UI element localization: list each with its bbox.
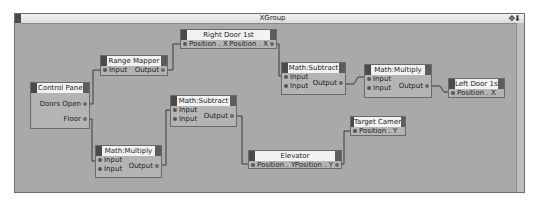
node-header[interactable]: Elevator <box>249 151 341 161</box>
node-header[interactable]: Math:Subtract <box>171 96 236 106</box>
port-label: Position . X <box>189 40 228 48</box>
input-port-icon[interactable] <box>251 163 255 167</box>
node-cap <box>83 83 89 93</box>
input-port-icon[interactable] <box>98 158 102 162</box>
port-label: Output <box>204 112 228 120</box>
input-port-icon[interactable] <box>353 129 357 133</box>
output-port[interactable]: Output <box>204 112 234 121</box>
port-label: Input <box>179 106 197 114</box>
node-title: Control Panel <box>37 83 83 93</box>
node-title: Right Door 1st <box>187 30 270 40</box>
node-cap <box>155 146 161 156</box>
node-cap <box>335 151 341 161</box>
output-port[interactable]: Output <box>399 82 429 91</box>
node-math-subtract-1[interactable]: Math:Subtract Input Input Output <box>170 95 237 127</box>
input-port-icon[interactable] <box>284 84 288 88</box>
node-elevator[interactable]: Elevator Position . Y Position . Y <box>248 150 342 169</box>
input-port-icon[interactable] <box>173 108 177 112</box>
input-port-icon[interactable] <box>173 117 177 121</box>
node-cap <box>161 56 167 66</box>
port-doors-open[interactable]: Doors Open <box>31 100 89 109</box>
port-label: Input <box>373 84 391 92</box>
node-header[interactable]: Left Door 1st <box>449 79 504 89</box>
node-title: Math:Subtract <box>288 63 339 73</box>
port-row[interactable]: Position . X Position . X <box>181 40 276 49</box>
node-math-multiply-1[interactable]: Math:Multiply Input Input Output <box>95 145 162 178</box>
node-control-panel[interactable]: Control Panel Doors Open Floor <box>30 82 90 129</box>
node-right-door[interactable]: Right Door 1st Position . X Position . X <box>180 29 277 49</box>
output-port-icon[interactable] <box>83 117 87 121</box>
port-label: Output <box>135 66 159 74</box>
input-port-icon[interactable] <box>451 91 455 95</box>
node-header[interactable]: Math:Multiply <box>96 146 161 156</box>
node-header[interactable]: Target Camera <box>351 117 405 127</box>
node-title: Math:Multiply <box>371 65 425 75</box>
port-label: Floor <box>64 115 81 123</box>
node-left-door[interactable]: Left Door 1st Position . X <box>448 78 505 98</box>
port-label: Position . X <box>229 40 268 48</box>
node-math-multiply-2[interactable]: Math:Multiply Input Input Output <box>364 64 432 98</box>
node-title: Range Mapper <box>107 56 161 66</box>
output-port-icon[interactable] <box>270 42 274 46</box>
port-label: Input <box>179 115 197 123</box>
input-port-icon[interactable] <box>284 75 288 79</box>
output-port-icon[interactable] <box>230 114 234 118</box>
port-label: Position . Y <box>257 161 295 169</box>
port-label: Input <box>290 82 308 90</box>
window-title: XGroup <box>259 14 285 22</box>
node-header[interactable]: Math:Multiply <box>365 65 431 75</box>
port-label: Position . Y <box>359 127 397 135</box>
input-port-icon[interactable] <box>103 68 107 72</box>
node-range-mapper[interactable]: Range Mapper Input Output <box>100 55 168 76</box>
input-port-icon[interactable] <box>367 77 371 81</box>
port-label: Output <box>313 79 337 87</box>
port-label: Input <box>109 66 127 74</box>
node-cap <box>230 96 236 106</box>
output-port-icon[interactable] <box>83 102 87 106</box>
node-cap <box>401 117 405 127</box>
move-collapse-icon[interactable]: ✥⬇ <box>509 14 520 23</box>
port-label: Input <box>104 165 122 173</box>
port-row[interactable]: Position . Y <box>351 127 405 136</box>
node-title: Math:Multiply <box>102 146 155 156</box>
output-port-icon[interactable] <box>161 68 165 72</box>
output-port-icon[interactable] <box>425 84 429 88</box>
input-port-icon[interactable] <box>98 167 102 171</box>
node-header[interactable]: Range Mapper <box>101 56 167 66</box>
node-cap <box>498 79 504 89</box>
port-label: Output <box>399 82 423 90</box>
port-row[interactable]: Position . X <box>449 89 504 98</box>
node-cap <box>425 65 431 75</box>
port-label: Position . X <box>457 89 496 97</box>
node-title: Math:Subtract <box>177 96 230 106</box>
output-port[interactable]: Output <box>313 79 343 88</box>
node-title: Left Door 1st <box>455 79 498 89</box>
node-cap <box>270 30 276 40</box>
input-port-icon[interactable] <box>367 86 371 90</box>
port-label: Input <box>290 73 308 81</box>
node-title: Target Camera <box>354 117 401 127</box>
output-port-icon[interactable] <box>155 164 159 168</box>
output-port[interactable]: Output <box>129 162 159 171</box>
port-row[interactable]: Input Output <box>101 66 167 75</box>
node-header[interactable]: Right Door 1st <box>181 30 276 40</box>
node-target-camera[interactable]: Target Camera Position . Y <box>350 116 406 136</box>
port-label: Output <box>129 162 153 170</box>
port-label: Position . Y <box>295 161 333 169</box>
input-port-icon[interactable] <box>183 42 187 46</box>
resize-edge[interactable] <box>516 23 524 192</box>
port-label: Doors Open <box>40 100 81 108</box>
output-port-icon[interactable] <box>335 163 339 167</box>
port-row[interactable]: Position . Y Position . Y <box>249 161 341 170</box>
title-bar[interactable]: XGroup ✥⬇ <box>21 14 524 24</box>
node-header[interactable]: Control Panel <box>31 83 89 93</box>
node-title: Elevator <box>255 151 335 161</box>
node-header[interactable]: Math:Subtract <box>282 63 345 73</box>
port-label: Input <box>104 156 122 164</box>
port-floor[interactable]: Floor <box>31 115 89 124</box>
output-port-icon[interactable] <box>339 81 343 85</box>
node-cap <box>339 63 345 73</box>
node-math-subtract-2[interactable]: Math:Subtract Input Input Output <box>281 62 346 95</box>
port-label: Input <box>373 75 391 83</box>
